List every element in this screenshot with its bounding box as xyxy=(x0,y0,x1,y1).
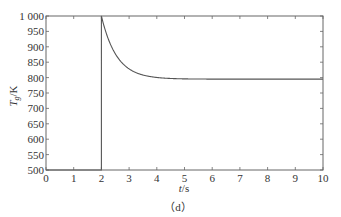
x-tick-label: 8 xyxy=(265,172,271,184)
temperature-series-line xyxy=(46,16,323,170)
y-axis-label: Tg/K xyxy=(7,85,21,106)
line-chart: 5005506006507007508008509009501 000 0123… xyxy=(0,0,341,217)
plot-frame xyxy=(46,16,323,170)
x-tick-label: 6 xyxy=(209,172,215,184)
y-tick-label: 1 000 xyxy=(19,10,44,22)
x-tick-label: 1 xyxy=(71,172,77,184)
x-tick-label: 4 xyxy=(154,172,160,184)
y-tick-label: 800 xyxy=(28,72,45,84)
y-tick-label: 700 xyxy=(28,102,45,114)
x-tick-label: 2 xyxy=(99,172,105,184)
y-tick-label: 550 xyxy=(28,149,45,161)
x-tick-label: 10 xyxy=(318,172,330,184)
y-tick-label: 750 xyxy=(28,87,45,99)
y-tick-label: 950 xyxy=(28,25,45,37)
x-tick-label: 7 xyxy=(237,172,243,184)
y-tick-label: 650 xyxy=(28,118,45,130)
y-tick-label: 850 xyxy=(28,56,45,68)
x-tick-label: 0 xyxy=(43,172,49,184)
y-tick-label: 600 xyxy=(28,133,45,145)
y-tick-label: 900 xyxy=(28,41,45,53)
axis-ticks xyxy=(46,16,323,170)
x-tick-label: 9 xyxy=(293,172,299,184)
figure-caption: （d） xyxy=(164,201,192,213)
y-axis-tick-labels: 5005506006507007508008509009501 000 xyxy=(19,10,44,176)
x-axis-label: t/s xyxy=(179,182,189,194)
y-tick-label: 500 xyxy=(28,164,45,176)
x-tick-label: 3 xyxy=(126,172,132,184)
